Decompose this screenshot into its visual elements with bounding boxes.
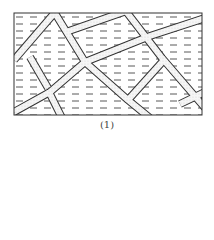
figure-caption: (1) bbox=[0, 119, 214, 130]
